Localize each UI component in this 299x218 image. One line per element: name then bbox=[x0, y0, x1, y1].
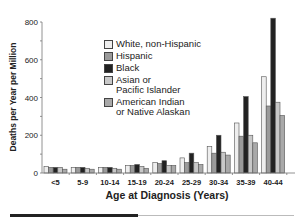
bar-group bbox=[71, 167, 94, 173]
bar bbox=[212, 153, 217, 173]
legend-label: Asian or Pacific Islander bbox=[116, 75, 180, 95]
bar bbox=[198, 165, 203, 173]
bar bbox=[253, 143, 258, 173]
bar bbox=[275, 102, 280, 173]
bar bbox=[153, 163, 158, 173]
bar bbox=[271, 18, 276, 173]
legend-label: White, non-Hispanic bbox=[116, 39, 201, 49]
x-tick-label: 20-24 bbox=[155, 178, 175, 187]
bar bbox=[262, 77, 267, 173]
bar bbox=[185, 163, 190, 173]
bar bbox=[53, 167, 58, 173]
bar bbox=[139, 166, 144, 173]
bar bbox=[244, 97, 249, 173]
bar bbox=[239, 136, 244, 173]
y-tick-label: 400 bbox=[25, 94, 39, 103]
bar bbox=[135, 165, 140, 173]
legend-swatch-icon bbox=[104, 64, 113, 73]
bar bbox=[112, 168, 117, 173]
bar bbox=[280, 115, 285, 173]
x-tick-label: 25-29 bbox=[182, 178, 201, 187]
bar bbox=[76, 167, 81, 173]
legend-label: Black bbox=[116, 63, 139, 73]
x-tick-label: 30-34 bbox=[209, 178, 229, 187]
y-tick-label: 600 bbox=[25, 56, 39, 65]
bar-group bbox=[180, 153, 203, 173]
legend-swatch-icon bbox=[104, 52, 113, 61]
legend-swatch-icon bbox=[104, 76, 113, 85]
divider bbox=[10, 214, 138, 217]
bar bbox=[126, 165, 131, 173]
bar-group bbox=[262, 18, 285, 173]
x-tick-label: 40-44 bbox=[264, 178, 284, 187]
bar-group bbox=[207, 135, 230, 173]
legend-swatch-icon bbox=[104, 40, 113, 49]
bar bbox=[103, 167, 108, 173]
y-tick-label: 800 bbox=[25, 18, 39, 27]
bar bbox=[58, 167, 63, 173]
x-tick-label: 5-9 bbox=[77, 178, 88, 187]
legend-label: Hispanic bbox=[116, 51, 152, 61]
x-axis-title: Age at Diagnosis (Years) bbox=[105, 189, 228, 201]
x-tick-label: 35-39 bbox=[236, 178, 255, 187]
y-tick-label: 200 bbox=[25, 131, 39, 140]
bar bbox=[157, 164, 162, 173]
bar bbox=[226, 155, 231, 173]
bar bbox=[194, 163, 199, 173]
bar bbox=[130, 165, 135, 173]
bar bbox=[167, 165, 172, 173]
bar bbox=[248, 135, 253, 173]
legend-swatch-icon bbox=[104, 98, 113, 107]
bar bbox=[80, 167, 85, 173]
chart-legend: White, non-HispanicHispanicBlackAsian or… bbox=[104, 39, 201, 119]
bar bbox=[85, 168, 90, 173]
bar bbox=[207, 147, 212, 173]
x-tick-label: <5 bbox=[51, 178, 60, 187]
bar bbox=[189, 153, 194, 173]
bar-group bbox=[44, 166, 67, 173]
bar bbox=[144, 168, 149, 173]
bar bbox=[71, 167, 76, 173]
bar bbox=[98, 167, 103, 173]
bar bbox=[234, 123, 239, 173]
legend-item: Asian or Pacific Islander bbox=[104, 75, 201, 95]
bar bbox=[49, 167, 54, 173]
legend-item: White, non-Hispanic bbox=[104, 39, 201, 49]
y-tick-label: 0 bbox=[34, 169, 39, 178]
bar bbox=[216, 135, 221, 173]
bar bbox=[266, 106, 271, 173]
bar-group bbox=[234, 97, 257, 173]
bar bbox=[162, 161, 167, 173]
bar bbox=[180, 158, 185, 173]
y-axis: 0200400600800 bbox=[25, 18, 42, 178]
bar bbox=[90, 169, 95, 173]
bar bbox=[221, 152, 226, 173]
x-tick-label: 10-14 bbox=[100, 178, 120, 187]
y-axis-title: Deaths per Year per Million bbox=[8, 43, 18, 152]
legend-item: American Indian or Native Alaskan bbox=[104, 97, 201, 117]
bar bbox=[44, 166, 49, 173]
x-tick-label: 15-19 bbox=[128, 178, 147, 187]
bar bbox=[171, 165, 176, 173]
bar bbox=[117, 169, 122, 173]
x-axis: <55-910-1415-1920-2425-2930-3435-3940-44 bbox=[42, 173, 295, 187]
bar-group bbox=[98, 167, 121, 173]
bar bbox=[108, 167, 113, 173]
legend-item: Hispanic bbox=[104, 51, 201, 61]
legend-item: Black bbox=[104, 63, 201, 73]
bar bbox=[62, 169, 67, 173]
legend-label: American Indian or Native Alaskan bbox=[116, 97, 190, 117]
bar-group bbox=[153, 161, 176, 173]
bar-group bbox=[126, 165, 149, 173]
divider bbox=[138, 215, 294, 216]
